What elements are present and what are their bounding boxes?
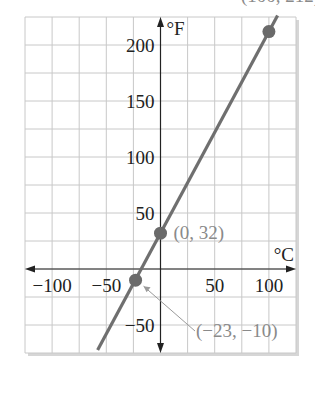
x-tick-label: −50 — [91, 275, 121, 296]
y-tick-label: −50 — [125, 315, 155, 336]
x-tick-label: 100 — [255, 275, 284, 296]
y-tick-label: 200 — [126, 35, 155, 56]
y-tick-label: 50 — [136, 203, 155, 224]
x-tick-label: 50 — [205, 275, 224, 296]
data-point — [154, 227, 167, 240]
point-label-100-212: (100, 212) — [241, 0, 315, 7]
point-label-neg23-neg10: (−23, −10) — [196, 320, 278, 342]
chart-canvas: °F°C−100−5050100−5050100150200(100, 212)… — [0, 0, 315, 397]
x-axis-label: °C — [274, 244, 294, 265]
point-label-0-32: (0, 32) — [174, 222, 225, 244]
y-axis-label: °F — [167, 18, 185, 39]
temperature-conversion-chart: °F°C−100−5050100−5050100150200(100, 212)… — [0, 0, 315, 397]
y-tick-label: 100 — [126, 147, 155, 168]
data-point — [129, 274, 142, 287]
x-tick-label: −100 — [32, 275, 71, 296]
data-point — [262, 25, 275, 38]
y-tick-label: 150 — [126, 91, 155, 112]
